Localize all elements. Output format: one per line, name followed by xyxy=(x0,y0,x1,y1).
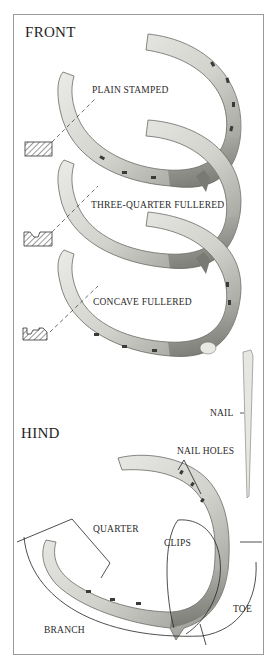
horseshoe-illustration xyxy=(0,0,277,663)
label-concave-fullered: CONCAVE FULLERED xyxy=(93,297,192,307)
nail-illustration xyxy=(240,350,253,498)
hind-section-title: HIND xyxy=(21,425,60,442)
label-clips: CLIPS xyxy=(164,538,191,548)
front-section-title: FRONT xyxy=(25,24,76,41)
label-quarter: QUARTER xyxy=(93,524,139,534)
label-toe: TOE xyxy=(233,604,252,614)
label-plain-stamped: PLAIN STAMPED xyxy=(92,85,169,95)
label-nail-holes: NAIL HOLES xyxy=(177,446,234,456)
label-nail: NAIL xyxy=(210,408,234,418)
label-three-quarter-fullered: THREE-QUARTER FULLERED xyxy=(91,200,224,210)
label-branch: BRANCH xyxy=(44,625,85,635)
shoe-hind xyxy=(43,455,229,640)
